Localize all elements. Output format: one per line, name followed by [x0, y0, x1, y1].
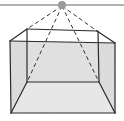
texture-overlay	[10, 41, 116, 114]
ray-to-back-top-right	[62, 6, 97, 31]
top-back-edge	[27, 29, 97, 31]
light-bulb-icon	[58, 1, 66, 9]
ray-to-back-top-left	[27, 6, 62, 29]
light-room-diagram	[0, 0, 124, 121]
top-left-edge	[10, 29, 27, 41]
